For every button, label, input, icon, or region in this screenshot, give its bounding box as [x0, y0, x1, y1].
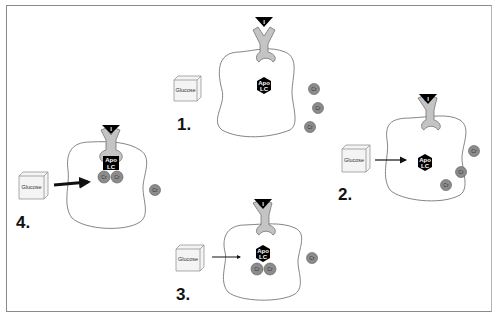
chromium-ion: Cr	[469, 146, 480, 157]
apo-lc-hexagon: Apo LC	[256, 245, 270, 262]
svg-text:Cr: Cr	[309, 255, 315, 261]
svg-text:LC: LC	[107, 164, 116, 170]
step-number: 2.	[338, 185, 352, 204]
svg-text:Cr: Cr	[443, 182, 449, 188]
svg-text:Glucose: Glucose	[21, 184, 41, 190]
svg-text:Glucose: Glucose	[178, 256, 198, 262]
insulin-receptor	[253, 27, 275, 62]
svg-text:LC: LC	[421, 163, 430, 169]
apo-lc-hexagon: Apo LC	[418, 154, 432, 171]
panel-1: I Apo LC Glucose Cr Cr Cr 1.	[174, 17, 324, 137]
svg-text:Apo: Apo	[105, 157, 117, 163]
panel-4: I Apo LC Cr Cr Cr Glucose 4.	[16, 125, 161, 232]
cell-membrane	[217, 49, 295, 137]
apo-lc-box: Apo LC	[103, 156, 119, 170]
svg-text:Glucose: Glucose	[344, 157, 364, 163]
chromium-ion: Cr	[251, 263, 263, 275]
panel-2: I Apo LC Glucose Cr Cr Cr 2.	[338, 94, 480, 204]
chromium-ion: Cr	[441, 180, 452, 191]
glucose-box: Glucose	[176, 245, 204, 271]
svg-text:Cr: Cr	[114, 174, 120, 180]
arrow	[54, 182, 88, 185]
chromium-ion: Cr	[456, 167, 467, 178]
glucose-box: Glucose	[174, 76, 201, 101]
svg-text:Cr: Cr	[267, 266, 273, 272]
svg-text:Cr: Cr	[311, 86, 317, 92]
step-number: 4.	[16, 213, 30, 232]
chromium-ion: Cr	[309, 84, 320, 95]
svg-text:Glucose: Glucose	[175, 87, 195, 93]
chromium-ion: Cr	[98, 171, 110, 183]
svg-text:Cr: Cr	[315, 105, 321, 111]
chromium-ion: Cr	[150, 185, 161, 196]
svg-text:Apo: Apo	[257, 248, 269, 254]
chromium-ion: Cr	[305, 122, 316, 133]
panel-3: I Apo LC Cr Cr Cr Glucose 3.	[176, 199, 318, 304]
cell-membrane	[223, 224, 301, 300]
svg-text:Apo: Apo	[419, 157, 431, 163]
svg-text:Cr: Cr	[458, 169, 464, 175]
svg-text:Cr: Cr	[254, 266, 260, 272]
glucose-box: Glucose	[342, 145, 370, 172]
svg-text:Cr: Cr	[152, 187, 158, 193]
glucose-box: Glucose	[19, 172, 48, 199]
svg-text:LC: LC	[259, 254, 268, 260]
svg-text:Cr: Cr	[307, 124, 313, 130]
step-number: 3.	[176, 285, 190, 304]
chromium-ion: Cr	[313, 103, 324, 114]
chromium-ion: Cr	[264, 263, 276, 275]
svg-text:LC: LC	[260, 86, 269, 92]
chromium-ion: Cr	[307, 253, 318, 264]
apo-lc-hexagon: Apo LC	[257, 77, 271, 94]
svg-text:Apo: Apo	[258, 80, 270, 86]
step-number: 1.	[177, 115, 191, 134]
insulin-icon: I	[255, 17, 273, 27]
svg-text:Cr: Cr	[101, 174, 107, 180]
diagram-canvas: I Apo LC Glucose Cr Cr Cr 1. I Apo LC	[0, 0, 501, 317]
svg-text:Cr: Cr	[471, 148, 477, 154]
chromium-ion: Cr	[111, 171, 123, 183]
